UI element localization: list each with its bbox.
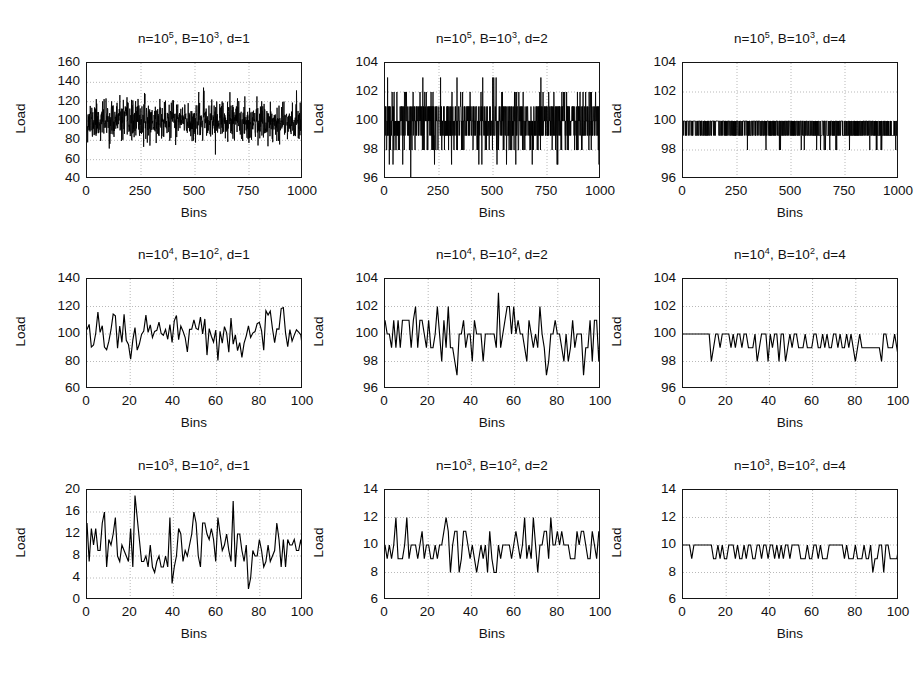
data-line xyxy=(385,78,600,179)
data-line xyxy=(683,121,898,150)
y-tick-label: 20 xyxy=(40,482,80,496)
x-axis-label: Bins xyxy=(682,415,898,430)
y-axis-label: Load xyxy=(13,89,28,149)
x-tick-label: 60 xyxy=(782,394,842,408)
y-tick-label: 98 xyxy=(636,142,676,156)
gridlines xyxy=(87,63,302,178)
y-tick-label: 4 xyxy=(40,570,80,584)
y-tick-label: 98 xyxy=(338,354,378,368)
x-tick-label: 60 xyxy=(782,605,842,619)
plot-area xyxy=(682,62,898,178)
plot-area xyxy=(86,489,302,599)
x-tick-label: 0 xyxy=(652,605,712,619)
y-tick-label: 14 xyxy=(338,482,378,496)
chart-panel-panel-1-3: n=105, B=103, d=496981001021040250500750… xyxy=(0,0,923,678)
y-axis-label: Load xyxy=(311,302,326,362)
x-tick-label: 100 xyxy=(272,394,332,408)
x-tick-label: 20 xyxy=(397,394,457,408)
x-axis-label: Bins xyxy=(384,626,600,641)
x-tick-label: 0 xyxy=(56,605,116,619)
y-tick-label: 102 xyxy=(338,84,378,98)
y-tick-label: 14 xyxy=(636,482,676,496)
gridlines xyxy=(87,490,302,599)
y-tick-label: 140 xyxy=(40,271,80,285)
y-tick-label: 12 xyxy=(338,510,378,524)
x-tick-label: 1000 xyxy=(868,184,923,198)
x-tick-label: 20 xyxy=(397,605,457,619)
x-tick-label: 40 xyxy=(738,605,798,619)
panel-title: n=103, B=102, d=1 xyxy=(26,458,362,473)
x-tick-label: 60 xyxy=(484,394,544,408)
y-tick-label: 102 xyxy=(636,299,676,313)
x-tick-label: 1000 xyxy=(570,184,630,198)
x-tick-label: 60 xyxy=(186,605,246,619)
x-tick-label: 40 xyxy=(142,605,202,619)
y-tick-label: 6 xyxy=(636,592,676,606)
x-tick-label: 100 xyxy=(570,394,630,408)
gridlines xyxy=(683,279,898,388)
x-tick-label: 60 xyxy=(186,394,246,408)
x-tick-label: 20 xyxy=(695,394,755,408)
y-tick-label: 100 xyxy=(636,113,676,127)
y-tick-label: 104 xyxy=(636,55,676,69)
plot-area xyxy=(86,278,302,388)
y-tick-label: 102 xyxy=(636,84,676,98)
y-axis-label: Load xyxy=(609,302,624,362)
y-tick-label: 10 xyxy=(338,537,378,551)
y-axis-label: Load xyxy=(311,89,326,149)
y-tick-label: 40 xyxy=(40,171,80,185)
x-tick-label: 1000 xyxy=(272,184,332,198)
y-axis-label: Load xyxy=(609,89,624,149)
chart-panel-panel-2-1: n=104, B=102, d=160801001201400204060801… xyxy=(0,0,923,678)
y-tick-label: 160 xyxy=(40,55,80,69)
panel-title: n=103, B=102, d=2 xyxy=(324,458,660,473)
panel-title: n=104, B=102, d=4 xyxy=(622,247,923,262)
x-tick-label: 80 xyxy=(825,605,885,619)
y-tick-label: 104 xyxy=(636,271,676,285)
y-tick-label: 16 xyxy=(40,504,80,518)
gridlines xyxy=(683,490,898,599)
y-tick-label: 0 xyxy=(40,592,80,606)
x-axis-label: Bins xyxy=(384,415,600,430)
y-tick-label: 98 xyxy=(636,354,676,368)
y-tick-label: 60 xyxy=(40,152,80,166)
x-axis-label: Bins xyxy=(682,205,898,220)
x-tick-label: 0 xyxy=(56,184,116,198)
y-tick-label: 102 xyxy=(338,299,378,313)
x-tick-label: 20 xyxy=(695,605,755,619)
y-axis-label: Load xyxy=(13,302,28,362)
y-tick-label: 104 xyxy=(338,271,378,285)
y-tick-label: 120 xyxy=(40,299,80,313)
chart-panel-panel-3-3: n=103, B=102, d=468101214020406080100Loa… xyxy=(0,0,923,678)
y-tick-label: 8 xyxy=(636,565,676,579)
y-tick-label: 10 xyxy=(636,537,676,551)
plot-area xyxy=(682,489,898,599)
y-tick-label: 96 xyxy=(636,171,676,185)
chart-panel-panel-2-3: n=104, B=102, d=496981001021040204060801… xyxy=(0,0,923,678)
y-tick-label: 80 xyxy=(40,132,80,146)
data-line xyxy=(87,496,302,590)
y-tick-label: 100 xyxy=(636,326,676,340)
x-tick-label: 250 xyxy=(408,184,468,198)
y-tick-label: 100 xyxy=(338,113,378,127)
x-axis-label: Bins xyxy=(682,626,898,641)
x-axis-label: Bins xyxy=(86,626,302,641)
y-axis-label: Load xyxy=(609,513,624,573)
data-line xyxy=(87,308,302,361)
x-tick-label: 60 xyxy=(484,605,544,619)
chart-panel-panel-3-2: n=103, B=102, d=268101214020406080100Loa… xyxy=(0,0,923,678)
x-axis-label: Bins xyxy=(86,205,302,220)
y-tick-label: 120 xyxy=(40,94,80,108)
panel-title: n=104, B=102, d=2 xyxy=(324,247,660,262)
x-tick-label: 0 xyxy=(56,394,116,408)
y-tick-label: 104 xyxy=(338,55,378,69)
plot-area xyxy=(384,62,600,178)
gridlines xyxy=(385,279,600,388)
data-line xyxy=(385,293,600,376)
y-axis-label: Load xyxy=(13,513,28,573)
gridlines xyxy=(87,279,302,388)
panel-title: n=105, B=103, d=2 xyxy=(324,31,660,46)
x-tick-label: 100 xyxy=(570,605,630,619)
data-line xyxy=(683,545,898,573)
x-tick-label: 0 xyxy=(354,184,414,198)
